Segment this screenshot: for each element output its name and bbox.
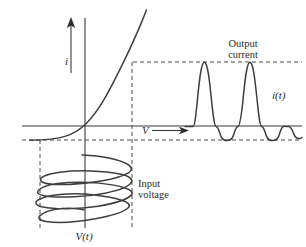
i-axis-arrow-group: i [65, 17, 75, 73]
input-voltage-label-line1: Input [138, 178, 160, 189]
input-signal-label: V(t) [75, 230, 92, 243]
i-axis-label: i [65, 55, 68, 67]
output-current-label-line2: current [228, 49, 258, 60]
diode-rectification-figure: i V Output current i(t) Input voltage V(… [0, 0, 306, 247]
output-current-waveform [185, 62, 302, 140]
input-voltage-label-line2: voltage [138, 189, 169, 200]
output-signal-label: i(t) [272, 89, 286, 102]
figure-canvas: i V Output current i(t) Input voltage V(… [0, 0, 306, 247]
input-voltage-waveform [36, 155, 132, 222]
reference-lines [22, 62, 302, 228]
output-current-label-line1: Output [228, 38, 257, 49]
diode-iv-curve [30, 10, 146, 140]
